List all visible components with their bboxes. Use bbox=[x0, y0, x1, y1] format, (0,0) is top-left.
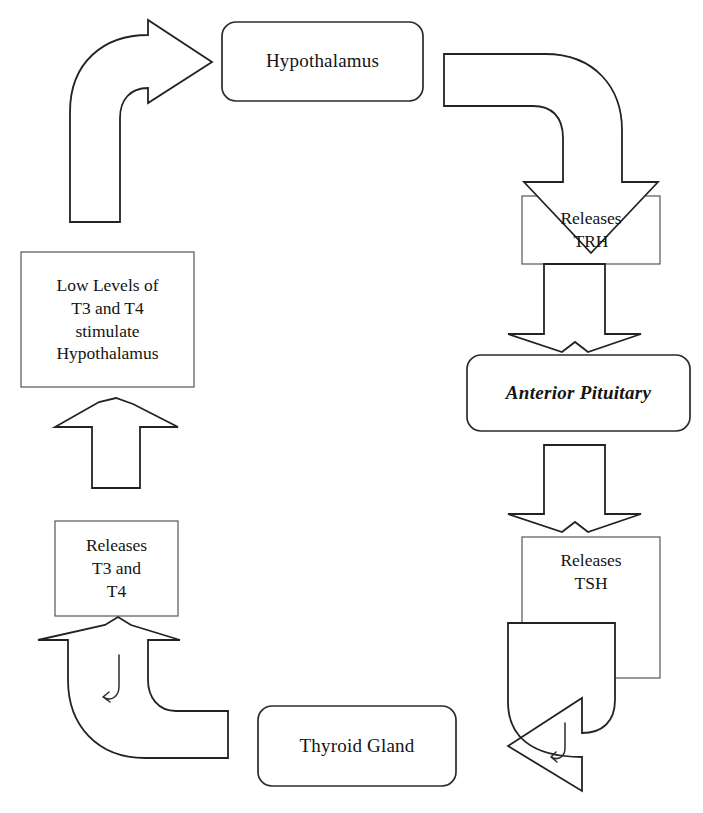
diagram-canvas bbox=[0, 0, 703, 813]
arrow-lowlevels-to-hypothalamus bbox=[70, 20, 212, 222]
arrow-t3t4-to-lowlevels bbox=[55, 398, 178, 488]
thyroid-feedback-diagram: Hypothalamus Releases TRH Anterior Pitui… bbox=[0, 0, 703, 813]
arrow-tsh-to-thyroid bbox=[508, 623, 615, 791]
arrow-thyroid-to-t3t4-body bbox=[38, 617, 228, 758]
node-hypothalamus[interactable] bbox=[222, 22, 423, 101]
node-low-levels[interactable] bbox=[21, 252, 194, 387]
node-releases-t3-t4[interactable] bbox=[55, 521, 178, 616]
arrow-anterior-to-tsh bbox=[508, 445, 641, 532]
node-thyroid-gland[interactable] bbox=[258, 706, 456, 786]
node-anterior-pituitary[interactable] bbox=[467, 355, 690, 431]
arrow-trh-to-anterior bbox=[508, 264, 641, 352]
